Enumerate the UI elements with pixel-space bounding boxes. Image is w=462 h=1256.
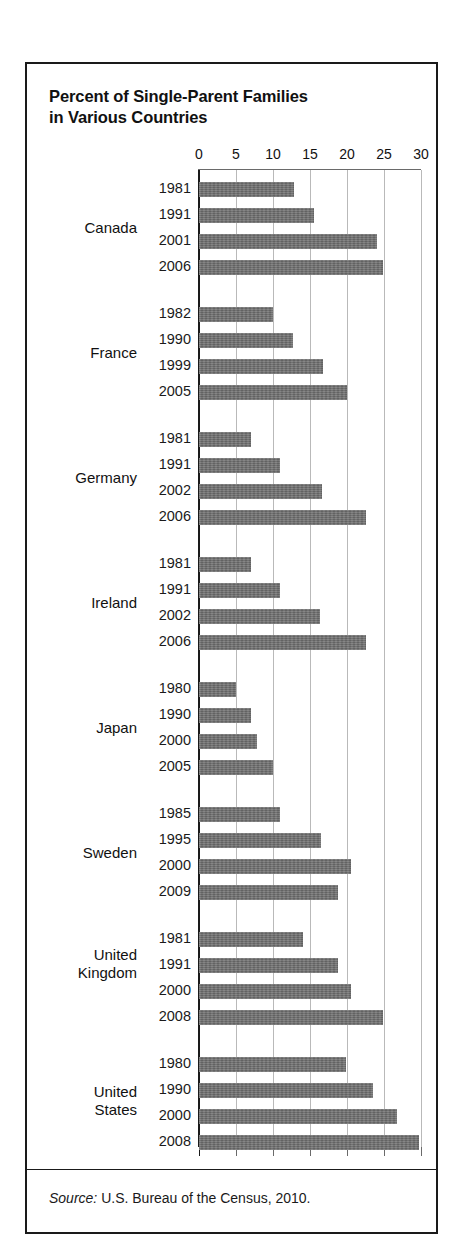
bar-france-2005 xyxy=(199,385,347,400)
country-label-canada: Canada xyxy=(84,219,137,237)
country-label-line: Germany xyxy=(75,469,137,487)
source-text: U.S. Bureau of the Census, 2010. xyxy=(101,1190,310,1206)
bar-japan-2005 xyxy=(199,760,273,775)
bar-united-kingdom-2000 xyxy=(199,984,351,999)
year-label-2006: 2006 xyxy=(159,633,191,649)
year-label-1981: 1981 xyxy=(159,930,191,946)
year-label-2008: 2008 xyxy=(159,1008,191,1024)
country-label-germany: Germany xyxy=(75,469,137,487)
bar-row xyxy=(199,609,421,624)
bar-row xyxy=(199,484,421,499)
bar-row xyxy=(199,682,421,697)
year-label-1981: 1981 xyxy=(159,555,191,571)
bar-row xyxy=(199,885,421,900)
bar-row xyxy=(199,432,421,447)
country-label-ireland: Ireland xyxy=(91,594,137,612)
bar-france-1999 xyxy=(199,359,323,374)
bar-ireland-2006 xyxy=(199,635,366,650)
bar-row xyxy=(199,932,421,947)
bar-row xyxy=(199,385,421,400)
year-label-1999: 1999 xyxy=(159,357,191,373)
bar-united-states-1990 xyxy=(199,1083,373,1098)
bar-row xyxy=(199,635,421,650)
bar-row xyxy=(199,583,421,598)
bar-japan-1980 xyxy=(199,682,236,697)
year-label-2000: 2000 xyxy=(159,982,191,998)
country-label-sweden: Sweden xyxy=(83,844,137,862)
bar-row xyxy=(199,958,421,973)
bar-row xyxy=(199,833,421,848)
year-label-1982: 1982 xyxy=(159,305,191,321)
bar-row xyxy=(199,1083,421,1098)
bar-row xyxy=(199,1057,421,1072)
year-label-2002: 2002 xyxy=(159,607,191,623)
x-tick-label-15: 15 xyxy=(295,146,325,162)
year-label-1990: 1990 xyxy=(159,331,191,347)
bar-japan-2000 xyxy=(199,734,257,749)
x-tick-label-0: 0 xyxy=(184,146,214,162)
bar-germany-1981 xyxy=(199,432,251,447)
bar-ireland-1981 xyxy=(199,557,251,572)
year-label-2005: 2005 xyxy=(159,758,191,774)
country-label-united-kingdom: UnitedKingdom xyxy=(78,946,137,982)
country-label-united-states: UnitedStates xyxy=(94,1083,137,1119)
title-line-1: Percent of Single-Parent Families xyxy=(49,86,419,107)
year-label-1991: 1991 xyxy=(159,456,191,472)
x-tick-label-30: 30 xyxy=(406,146,436,162)
bar-row xyxy=(199,208,421,223)
bar-row xyxy=(199,458,421,473)
bar-united-kingdom-1991 xyxy=(199,958,338,973)
country-label-japan: Japan xyxy=(96,719,137,737)
plot-area: 051015202530 xyxy=(199,170,421,1147)
bar-canada-2006 xyxy=(199,260,383,275)
bar-row xyxy=(199,760,421,775)
category-labels: 1981199120012006Canada1982199019992005Fr… xyxy=(27,170,199,1147)
bar-ireland-1991 xyxy=(199,583,280,598)
country-label-line: Ireland xyxy=(91,594,137,612)
bar-sweden-1985 xyxy=(199,807,280,822)
bar-united-kingdom-1981 xyxy=(199,932,303,947)
bar-row xyxy=(199,734,421,749)
page-title: Percent of Single-Parent Families in Var… xyxy=(49,86,419,129)
x-tick-mark-30 xyxy=(421,1147,422,1156)
bar-united-states-1980 xyxy=(199,1057,346,1072)
bar-row xyxy=(199,359,421,374)
country-label-france: France xyxy=(90,344,137,362)
bar-united-kingdom-2008 xyxy=(199,1010,383,1025)
x-tick-label-25: 25 xyxy=(369,146,399,162)
bar-ireland-2002 xyxy=(199,609,320,624)
bar-japan-1990 xyxy=(199,708,251,723)
country-label-line: Japan xyxy=(96,719,137,737)
bar-row xyxy=(199,1010,421,1025)
bar-row xyxy=(199,807,421,822)
country-label-line: Canada xyxy=(84,219,137,237)
bar-france-1990 xyxy=(199,333,293,348)
year-label-2000: 2000 xyxy=(159,732,191,748)
country-label-line: United xyxy=(94,1083,137,1101)
bar-united-states-2008 xyxy=(199,1135,419,1150)
source-divider xyxy=(27,1169,436,1170)
source-label: Source: xyxy=(49,1190,97,1206)
bar-canada-1991 xyxy=(199,208,314,223)
bar-row xyxy=(199,1135,421,1150)
bar-sweden-2009 xyxy=(199,885,338,900)
bar-row xyxy=(199,984,421,999)
year-label-2006: 2006 xyxy=(159,508,191,524)
bar-row xyxy=(199,510,421,525)
chart-figure: Percent of Single-Parent Families in Var… xyxy=(25,62,438,1234)
year-label-1980: 1980 xyxy=(159,680,191,696)
x-tick-label-5: 5 xyxy=(221,146,251,162)
gridline-30 xyxy=(421,170,422,1147)
country-label-line: Kingdom xyxy=(78,964,137,982)
bar-row xyxy=(199,307,421,322)
bar-germany-2006 xyxy=(199,510,366,525)
bar-row xyxy=(199,260,421,275)
bar-germany-1991 xyxy=(199,458,280,473)
country-label-line: France xyxy=(90,344,137,362)
bar-sweden-2000 xyxy=(199,859,351,874)
year-label-2008: 2008 xyxy=(159,1133,191,1149)
year-label-2002: 2002 xyxy=(159,482,191,498)
year-label-1981: 1981 xyxy=(159,430,191,446)
year-label-1990: 1990 xyxy=(159,706,191,722)
bar-row xyxy=(199,1109,421,1124)
